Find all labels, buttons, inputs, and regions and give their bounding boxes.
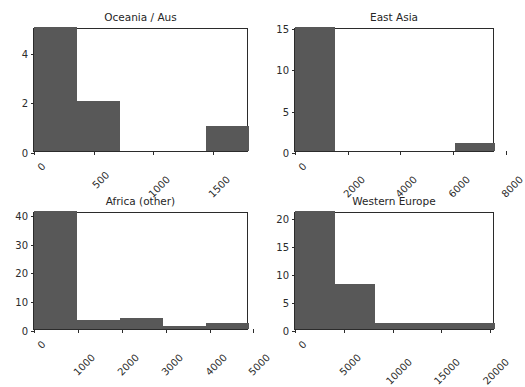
histogram-bar (295, 211, 335, 329)
x-axis-tick-label-wrap: 10000 (383, 356, 413, 386)
y-axis-tick-label: 10 (276, 269, 289, 280)
y-axis-tick (292, 275, 296, 276)
y-axis-tick (292, 303, 296, 304)
subplot-title-africa-other: Africa (other) (33, 195, 248, 207)
x-axis-tick (122, 329, 123, 333)
histogram-bar (206, 126, 249, 151)
y-axis-tick (292, 112, 296, 113)
x-axis-tick-label: 5000 (247, 352, 273, 378)
plot-area-western-europe: 0510152005000100001500020000 (294, 212, 494, 330)
x-axis-tick (253, 329, 254, 333)
y-axis-tick-label: 2 (22, 98, 28, 109)
y-axis-tick-label: 10 (15, 297, 28, 308)
histogram-bar (375, 323, 415, 329)
y-axis-tick-label: 4 (22, 48, 28, 59)
y-axis-tick-label: 5 (283, 297, 289, 308)
x-axis-tick-label-wrap: 20000 (481, 356, 511, 386)
x-axis-tick-label: 0 (35, 161, 47, 173)
histogram-bar (455, 143, 495, 151)
histogram-bar (335, 284, 375, 329)
y-axis-tick (31, 302, 35, 303)
x-axis-tick (441, 329, 442, 333)
x-axis-tick-label-wrap: 8000 (499, 174, 525, 200)
x-axis-tick (348, 151, 349, 155)
x-axis-tick-label-wrap: 0 (296, 161, 308, 173)
x-axis-tick-label-wrap: 500 (90, 170, 111, 191)
y-axis-tick-label: 15 (276, 241, 289, 252)
x-axis-tick-label-wrap: 0 (35, 161, 47, 173)
plot-area-africa-other: 010203040010002000300040005000 (33, 212, 248, 330)
y-axis-tick (31, 273, 35, 274)
x-axis-tick (506, 151, 507, 155)
histogram-bar (455, 323, 495, 329)
y-axis-tick-label: 5 (283, 106, 289, 117)
plot-area-east-asia: 05101502000400060008000 (294, 28, 494, 152)
x-axis-tick-label: 0 (35, 339, 47, 351)
y-axis-tick (292, 29, 296, 30)
x-axis-tick-label: 20000 (481, 356, 511, 386)
histogram-bar (77, 101, 120, 151)
y-axis-tick (292, 219, 296, 220)
x-axis-tick-label: 8000 (499, 174, 525, 200)
x-axis-tick-label-wrap: 5000 (337, 352, 363, 378)
y-axis-tick (31, 54, 35, 55)
x-axis-tick (295, 329, 296, 333)
x-axis-tick-label: 500 (90, 170, 111, 191)
x-axis-tick-label: 1000 (71, 352, 97, 378)
x-axis-tick-label-wrap: 15000 (432, 356, 462, 386)
y-axis-tick-label: 0 (283, 326, 289, 337)
histogram-bar (34, 27, 77, 151)
x-axis-tick-label: 3000 (159, 352, 185, 378)
histogram-bar (163, 326, 206, 329)
x-axis-tick (344, 329, 345, 333)
plot-area-oceania-aus: 024050010001500 (33, 28, 248, 152)
x-axis-tick (153, 151, 154, 155)
x-axis-tick-label: 10000 (383, 356, 413, 386)
y-axis-tick-label: 10 (276, 65, 289, 76)
y-axis-tick-label: 20 (15, 268, 28, 279)
y-axis-tick (292, 70, 296, 71)
x-axis-tick-label-wrap: 5000 (247, 352, 273, 378)
x-axis-tick (453, 151, 454, 155)
y-axis-tick (31, 216, 35, 217)
x-axis-tick-label: 0 (296, 161, 308, 173)
x-axis-tick-label: 2000 (115, 352, 141, 378)
y-axis-tick-label: 0 (283, 148, 289, 159)
x-axis-tick-label-wrap: 3000 (159, 352, 185, 378)
x-axis-tick (94, 151, 95, 155)
histogram-bar (34, 211, 77, 329)
histogram-bar (120, 318, 163, 330)
subplot-title-western-europe: Western Europe (294, 195, 494, 207)
x-axis-tick-label: 0 (296, 339, 308, 351)
x-axis-tick (393, 329, 394, 333)
y-axis-tick-label: 30 (15, 239, 28, 250)
x-axis-tick-label: 15000 (432, 356, 462, 386)
x-axis-tick-label-wrap: 1000 (71, 352, 97, 378)
y-axis-tick (31, 245, 35, 246)
histogram-bar (295, 27, 335, 151)
histogram-bar (415, 323, 455, 329)
x-axis-tick (34, 329, 35, 333)
x-axis-tick-label-wrap: 0 (35, 339, 47, 351)
figure-suptitle (0, 0, 513, 3)
x-axis-tick (295, 151, 296, 155)
y-axis-tick-label: 20 (276, 213, 289, 224)
x-axis-tick-label-wrap: 4000 (203, 352, 229, 378)
histogram-bar (206, 323, 249, 329)
y-axis-tick-label: 15 (276, 24, 289, 35)
x-axis-tick (166, 329, 167, 333)
x-axis-tick-label-wrap: 0 (296, 339, 308, 351)
y-axis-tick (31, 103, 35, 104)
x-axis-tick (78, 329, 79, 333)
y-axis-tick (292, 247, 296, 248)
subplot-title-east-asia: East Asia (294, 11, 494, 23)
x-axis-tick (34, 151, 35, 155)
x-axis-tick (400, 151, 401, 155)
x-axis-tick (210, 329, 211, 333)
x-axis-tick (490, 329, 491, 333)
y-axis-tick-label: 0 (22, 148, 28, 159)
y-axis-tick-label: 40 (15, 210, 28, 221)
x-axis-tick (213, 151, 214, 155)
x-axis-tick-label: 5000 (337, 352, 363, 378)
